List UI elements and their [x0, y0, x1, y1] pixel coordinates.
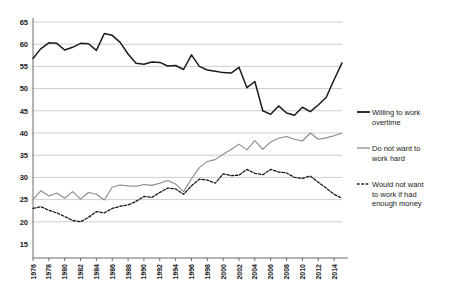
x-axis-tick-label: 2014 [331, 264, 338, 280]
y-axis-tick-label: 20 [20, 218, 28, 227]
x-axis-tick-label: 1980 [61, 264, 68, 280]
x-axis-tick-label: 1994 [172, 264, 179, 280]
x-axis-tick-label: 2010 [299, 264, 306, 280]
y-axis-tick-label: 25 [20, 195, 28, 204]
y-axis-tick-label: 35 [20, 151, 28, 160]
x-axis-tick-label: 1996 [188, 264, 195, 280]
y-axis-tick-label: 65 [20, 18, 28, 27]
x-axis-tick-label: 2004 [251, 264, 258, 280]
x-axis-tick-label: 1982 [77, 264, 84, 280]
legend-item-label: Would not wantto work if hadenough money [372, 180, 424, 208]
y-axis-tick-label: 15 [20, 240, 28, 249]
svg-text:Would not want: Would not want [372, 180, 424, 189]
x-axis-tick-label: 2000 [220, 264, 227, 280]
svg-text:to work if had: to work if had [372, 190, 417, 199]
x-axis-tick-label: 2002 [236, 264, 243, 280]
series-line-willing-to-work-overtime [33, 34, 342, 116]
svg-text:Do not want to: Do not want to [372, 144, 420, 153]
x-axis-tick-label: 1990 [140, 264, 147, 280]
svg-text:Willing to work: Willing to work [372, 108, 421, 117]
x-axis-tick-label: 1984 [93, 264, 100, 280]
y-axis-tick-label: 45 [20, 107, 28, 116]
x-axis-tick-label: 1978 [45, 264, 52, 280]
line-chart: 1520253035404550556065197619781980198219… [0, 0, 458, 308]
x-axis-tick-label: 1992 [156, 264, 163, 280]
y-axis-tick-label: 40 [20, 129, 28, 138]
y-axis-tick-label: 60 [20, 40, 28, 49]
svg-text:enough money: enough money [372, 199, 422, 208]
x-axis-tick-label: 2012 [315, 264, 322, 280]
x-axis-tick-label: 1998 [204, 264, 211, 280]
legend-item-label: Willing to workovertime [372, 108, 421, 127]
svg-text:work hard: work hard [371, 154, 405, 163]
x-axis-tick-label: 2008 [283, 264, 290, 280]
x-axis-tick-label: 1986 [109, 264, 116, 280]
x-axis-tick-label: 1976 [30, 264, 37, 280]
x-axis-tick-label: 2006 [267, 264, 274, 280]
chart-container: 1520253035404550556065197619781980198219… [0, 0, 458, 308]
y-axis-tick-label: 30 [20, 173, 28, 182]
x-axis-tick-label: 1988 [125, 264, 132, 280]
svg-text:overtime: overtime [372, 118, 401, 127]
y-axis-tick-label: 55 [20, 62, 28, 71]
legend-item-label: Do not want towork hard [371, 144, 420, 163]
y-axis-tick-label: 50 [20, 84, 28, 93]
